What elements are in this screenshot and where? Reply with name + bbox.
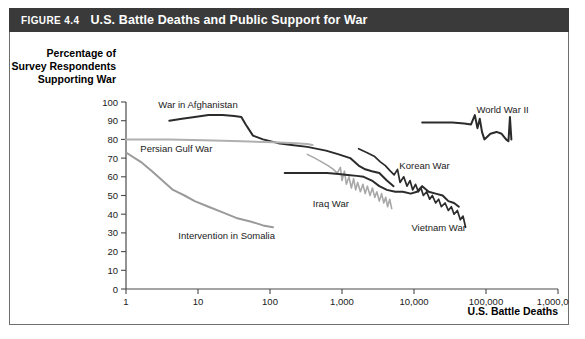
y-axis-ticks: 0102030405060708090100 xyxy=(102,97,126,295)
y-tick-label: 60 xyxy=(107,171,118,182)
x-tick-label: 100 xyxy=(262,296,278,307)
x-axis-title: U.S. Battle Deaths xyxy=(468,305,559,317)
y-tick-label: 50 xyxy=(107,190,118,201)
series-lines xyxy=(126,115,511,227)
y-tick-label: 20 xyxy=(107,246,118,257)
y-tick-label: 80 xyxy=(107,134,118,145)
figure-container: FIGURE 4.4 U.S. Battle Deaths and Public… xyxy=(0,0,585,339)
y-axis-title-line-1: Percentage of xyxy=(47,47,117,59)
y-tick-label: 40 xyxy=(107,209,118,220)
y-tick-label: 30 xyxy=(107,227,118,238)
y-axis-title: Percentage of Survey Respondents Support… xyxy=(12,47,117,85)
x-tick-label: 1 xyxy=(123,296,128,307)
series-label-vietnam-war: Vietnam War xyxy=(411,222,465,233)
y-axis-title-line-2: Survey Respondents xyxy=(12,60,117,72)
figure-number: FIGURE 4.4 xyxy=(21,15,79,26)
series-label-iraq-war: Iraq War xyxy=(313,198,349,209)
series-label-war-in-afghanistan: War in Afghanistan xyxy=(158,99,237,110)
series-label-world-war-ii: World War II xyxy=(476,104,528,115)
y-tick-label: 0 xyxy=(113,284,118,295)
series-label-persian-gulf-war: Persian Gulf War xyxy=(140,143,212,154)
x-tick-label: 10,000 xyxy=(399,296,428,307)
series-line-intervention-in-somalia xyxy=(126,152,273,227)
figure-title: U.S. Battle Deaths and Public Support fo… xyxy=(90,13,367,27)
series-label-korean-war: Korean War xyxy=(399,160,449,171)
y-tick-label: 70 xyxy=(107,153,118,164)
y-tick-label: 90 xyxy=(107,115,118,126)
y-tick-label: 10 xyxy=(107,265,118,276)
y-axis-title-line-3: Supporting War xyxy=(38,73,116,85)
x-tick-label: 10 xyxy=(193,296,204,307)
y-tick-label: 100 xyxy=(102,97,118,108)
series-line-world-war-ii xyxy=(422,115,511,141)
x-tick-label: 1,000 xyxy=(330,296,354,307)
chart-plot: Percentage of Survey Respondents Support… xyxy=(9,32,569,324)
series-label-intervention-in-somalia: Intervention in Somalia xyxy=(178,230,275,241)
figure-header-bar: FIGURE 4.4 U.S. Battle Deaths and Public… xyxy=(9,8,569,32)
